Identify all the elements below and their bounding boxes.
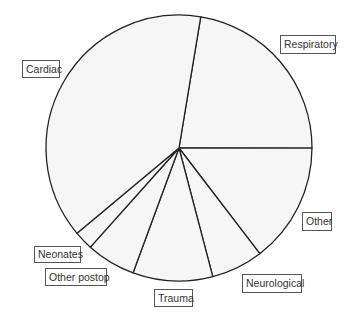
label-other: Other [302,212,332,231]
label-cardiac: Cardiac [22,60,60,78]
pie-slices [46,15,312,281]
label-trauma: Trauma [154,289,193,307]
label-neurological: Neurological [242,274,302,293]
label-other-postop: Other postop [45,268,107,286]
label-neonates: Neonates [34,246,81,263]
label-respiratory: Respiratory [280,35,336,54]
